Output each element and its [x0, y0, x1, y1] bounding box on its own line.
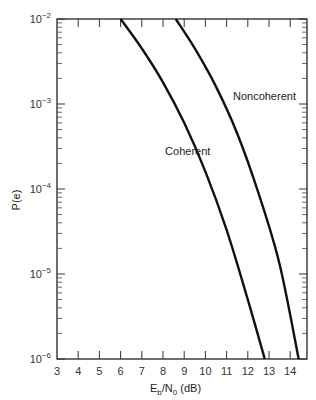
plot-frame	[57, 19, 307, 359]
svg-text:11: 11	[221, 365, 232, 377]
coherent-label: Coherent	[165, 145, 210, 157]
svg-text:13: 13	[263, 365, 275, 377]
svg-text:4: 4	[75, 365, 81, 377]
noncoherent-curve	[176, 19, 299, 359]
noncoherent-label: Noncoherent	[233, 90, 296, 102]
svg-text:3: 3	[54, 365, 60, 377]
y-axis-label: P(e)	[10, 190, 22, 211]
svg-text:10−5: 10−5	[30, 266, 52, 280]
coherent-curve	[121, 19, 265, 359]
y-axis-ticks: 10−210−310−410−510−6	[30, 11, 307, 365]
svg-text:10−4: 10−4	[30, 181, 52, 195]
svg-text:7: 7	[139, 365, 145, 377]
svg-text:5: 5	[96, 365, 102, 377]
svg-text:10: 10	[199, 365, 211, 377]
svg-text:10−2: 10−2	[30, 11, 52, 25]
svg-text:9: 9	[181, 365, 187, 377]
svg-text:10−3: 10−3	[30, 96, 52, 110]
curves	[121, 19, 299, 359]
svg-text:8: 8	[160, 365, 166, 377]
ber-chart: 34567891011121314 10−210−310−410−510−6 C…	[0, 0, 316, 400]
x-axis-label: Eb/N0 (dB)	[150, 382, 201, 397]
svg-text:12: 12	[242, 365, 254, 377]
svg-text:14: 14	[284, 365, 296, 377]
svg-text:10−6: 10−6	[30, 351, 52, 365]
svg-text:6: 6	[118, 365, 124, 377]
